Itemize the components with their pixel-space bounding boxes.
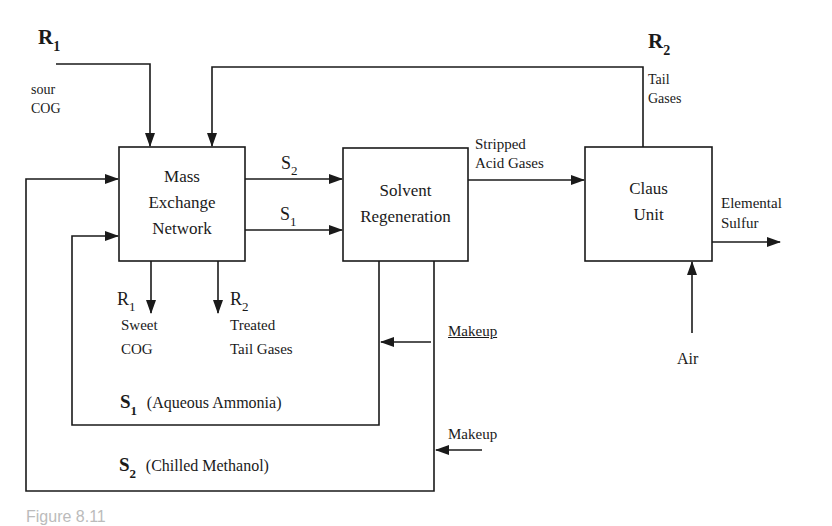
r2-tail-line1: Tail <box>648 70 681 89</box>
s2-loop-label: S2 (Chilled Methanol) <box>119 456 269 481</box>
air-label: Air <box>677 350 698 368</box>
r1-in-line2: COG <box>31 99 61 118</box>
r1-out-line1: Sweet <box>121 313 158 337</box>
s1-loop-label: S1 (Aqueous Ammonia) <box>120 393 281 418</box>
r1-in-sub: 1 <box>53 39 60 54</box>
stripped-label: Stripped Acid Gases <box>475 135 544 173</box>
regen-label: Solvent Regeneration <box>343 178 468 230</box>
r2-tail-sub: 2 <box>663 43 670 58</box>
r2-out-desc: Treated Tail Gases <box>230 313 293 361</box>
claus-label-line1: Claus <box>585 176 712 202</box>
sulfur-line2: Sulfur <box>721 213 782 233</box>
regen-label-line1: Solvent <box>343 178 468 204</box>
r1-in-line1: sour <box>31 80 61 99</box>
r2-out-line2: Tail Gases <box>230 337 293 361</box>
s1-loop-symbol-text: S <box>120 391 131 412</box>
r2-tail-symbol: R2 <box>648 32 670 58</box>
makeup1-label: Makeup <box>448 322 497 340</box>
figure-caption: Figure 8.11 <box>26 508 106 526</box>
r2-tail-desc: Tail Gases <box>648 70 681 108</box>
s2-loop-desc: (Chilled Methanol) <box>146 457 269 474</box>
r1-in-desc: sour COG <box>31 80 61 118</box>
claus-label: Claus Unit <box>585 176 712 228</box>
men-label: Mass Exchange Network <box>119 164 245 242</box>
r1-out-symbol-text: R <box>117 289 129 309</box>
stripped-line1: Stripped <box>475 135 544 154</box>
s1-loop-symbol: S1 <box>120 391 137 412</box>
s1-out-label: S1 <box>280 205 297 230</box>
s2-out-label: S2 <box>281 154 298 179</box>
s2-out-symbol: S <box>281 153 291 173</box>
r2-out-sub: 2 <box>242 299 249 314</box>
s2-loop-symbol-text: S <box>119 454 130 475</box>
s1-loop-desc: (Aqueous Ammonia) <box>147 394 282 411</box>
r1-in-symbol: R1 <box>38 28 60 54</box>
r1-feed-line <box>56 64 150 146</box>
r2-out-symbol-text: R <box>230 289 242 309</box>
men-label-line1: Mass <box>119 164 245 190</box>
makeup2-label: Makeup <box>448 425 497 443</box>
r1-out-symbol: R1 <box>117 290 136 315</box>
regen-label-line2: Regeneration <box>343 204 468 230</box>
s1-out-symbol: S <box>280 204 290 224</box>
r1-out-sub: 1 <box>129 299 136 314</box>
men-label-line3: Network <box>119 216 245 242</box>
sulfur-label: Elemental Sulfur <box>721 193 782 233</box>
r1-out-line2: COG <box>121 337 158 361</box>
r2-tail-line2: Gases <box>648 89 681 108</box>
r2-tail-symbol-text: R <box>648 29 663 53</box>
r2-out-line1: Treated <box>230 313 293 337</box>
s1-out-sub: 1 <box>290 214 297 229</box>
s2-loop-symbol: S2 <box>119 454 136 475</box>
sulfur-line1: Elemental <box>721 193 782 213</box>
r2-out-symbol: R2 <box>230 290 249 315</box>
s2-out-sub: 2 <box>291 163 298 178</box>
claus-label-line2: Unit <box>585 202 712 228</box>
s2-loop-sub: 2 <box>130 466 137 481</box>
r2-recycle-line <box>212 67 643 147</box>
men-label-line2: Exchange <box>119 190 245 216</box>
s1-loop-sub: 1 <box>131 403 138 418</box>
stripped-line2: Acid Gases <box>475 154 544 173</box>
r1-out-desc: Sweet COG <box>121 313 158 361</box>
r1-in-symbol-text: R <box>38 25 53 49</box>
